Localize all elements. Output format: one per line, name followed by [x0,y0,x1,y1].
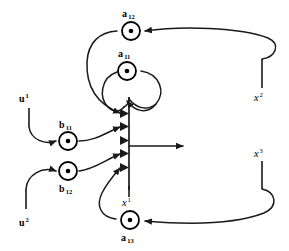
edge-u2-to-b12 [26,170,56,189]
label-u2: u2 [19,216,29,228]
label-u1: u1 [19,92,29,104]
edge-u1-to-b11 [29,127,56,142]
label-a13: a13 [121,232,134,244]
sum-arrow-5 [120,163,129,172]
edge-a13-to-sum [99,168,120,219]
edge-b12-to-sum [79,154,120,171]
node-b12-dot [66,169,71,174]
edge-x2-to-a12 [145,28,276,59]
sum-arrow-1 [120,109,129,118]
node-a13[interactable] [121,211,139,229]
node-a12-dot [129,29,134,34]
node-b12[interactable] [59,162,77,180]
signal-flow-diagram: a12 a11 b11 b12 a13 u1 u2 x1 x2 x3 [0,0,289,251]
node-b11-dot [66,139,71,144]
sum-input-arrowheads [120,109,129,172]
sum-arrow-4 [120,149,129,158]
label-x2: x2 [253,91,263,103]
label-b12: b12 [59,183,72,195]
edge-b11-to-sum [79,127,120,141]
label-x1: x1 [121,196,131,208]
label-a11: a11 [118,48,130,60]
node-b11[interactable] [59,132,77,150]
node-a11-dot [125,69,130,74]
node-a12[interactable] [122,22,140,40]
label-x3: x3 [253,147,263,159]
label-a12: a12 [122,8,135,20]
sum-arrow-2 [120,122,129,131]
edge-x3-to-a13 [145,189,274,223]
signal-flow-graph-canvas: a12 a11 b11 b12 a13 u1 u2 x1 x2 x3 [0,0,289,251]
sum-arrow-3 [120,136,129,145]
node-a13-dot [128,218,133,223]
label-b11: b11 [59,119,72,131]
node-a11[interactable] [118,62,136,80]
